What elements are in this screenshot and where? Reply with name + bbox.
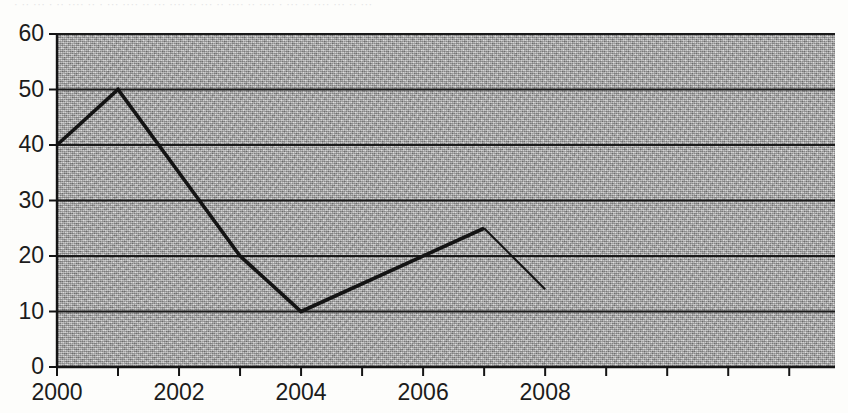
y-axis-label-0: 0: [31, 355, 44, 378]
x-axis-label-2000: 2000: [0, 381, 117, 404]
scanned-chart-page: · ·· ··· · ·· ···· ·· · ··· ···· ·· ··· …: [0, 0, 848, 413]
chart-svg: [0, 0, 848, 413]
x-axis-label-2004: 2004: [241, 381, 361, 404]
gridlines: [57, 34, 835, 367]
line-chart: 0102030405060 20002002200420062008: [0, 0, 848, 413]
y-axis-label-20: 20: [18, 244, 44, 267]
y-axis-label-30: 30: [18, 189, 44, 212]
x-axis-label-2008: 2008: [485, 381, 605, 404]
series-1-line-tail: [484, 228, 545, 289]
x-axis-label-2002: 2002: [119, 381, 239, 404]
y-axis-label-10: 10: [18, 300, 44, 323]
axis-ticks: [49, 34, 789, 376]
y-axis-label-50: 50: [18, 78, 44, 101]
y-axis-label-60: 60: [18, 22, 44, 45]
x-axis-label-2006: 2006: [363, 381, 483, 404]
y-axis-label-40: 40: [18, 133, 44, 156]
